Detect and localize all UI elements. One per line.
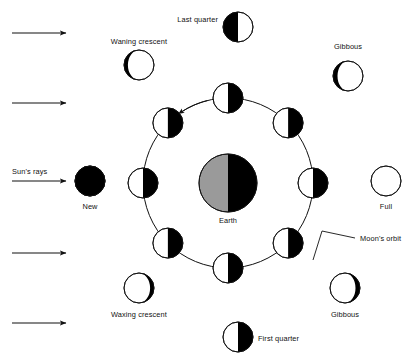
phase-moon-last_quarter [223,12,253,42]
phase-label-waning_crescent: Waning crescent [111,37,167,46]
phase-moon-last_quarter-shadow [223,12,238,42]
phase-moon-waning_gibbous [333,61,363,91]
phase-moon-first_quarter-shadow [238,322,253,352]
orbit-moon-full-shadow [313,168,328,198]
orbit-moon-waxing-gibbous-shadow [288,108,303,138]
orbit-moon-full [298,168,328,198]
orbit-moon-waning-gibbous [273,228,303,258]
moon-phases-diagram: Earth NewWaxing crescentFirst quarterGib… [0,0,416,363]
earth-label: Earth [219,216,237,225]
phase-moon-first_quarter [223,322,253,352]
moons-orbit-leader-line [313,231,355,260]
phase-label-full: Full [380,202,393,211]
orbit-direction-arrow-top [180,101,207,113]
phase-moon-waxing_crescent [124,273,154,303]
phase-label-last_quarter: Last quarter [177,15,218,24]
phase-label-waxing_gibbous: Gibbous [331,310,359,319]
orbit-moon-last-quarter-shadow [228,253,243,283]
diagram-canvas: Earth NewWaxing crescentFirst quarterGib… [0,0,416,363]
phase-label-waning_gibbous: Gibbous [334,42,362,51]
phase-label-new: New [82,202,98,211]
orbit-moon-last-quarter [213,253,243,283]
phase-label-waxing_crescent: Waxing crescent [111,310,167,319]
orbit-moon-waning-gibbous-shadow [288,228,303,258]
moons-orbit-label: Moon's orbit [360,234,401,243]
sun-rays-group [12,33,66,323]
suns-rays-label: Sun's rays [12,167,47,176]
phase-label-first_quarter: First quarter [258,334,300,343]
orbit-moon-waning [153,228,183,258]
orbit-moon-first-quarter [213,83,243,113]
orbit-moon-waxing-gibbous [273,108,303,138]
orbit-moon-new-shadow [143,168,158,198]
earth-group: Earth [199,154,257,225]
phase-moon-full [371,166,401,196]
orbit-moon-waxing [153,108,183,138]
phase-moon-waning_crescent [124,50,154,80]
orbit-moon-first-quarter-shadow [228,83,243,113]
phase-moon-waxing_gibbous [330,273,360,303]
earth-night-side [228,154,257,212]
orbit-moon-new [128,168,158,198]
phase-moon-new [75,166,105,196]
